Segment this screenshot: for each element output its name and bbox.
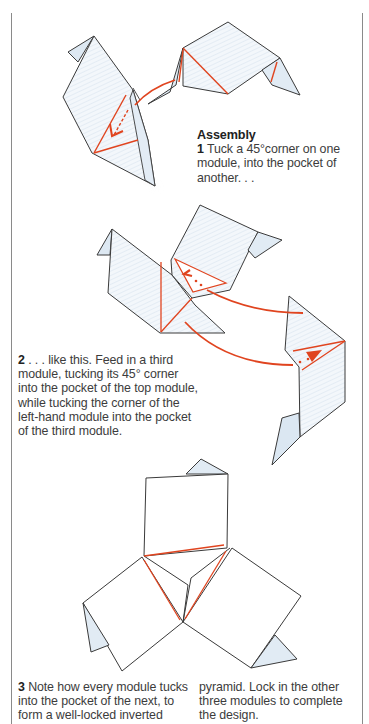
step-3-diagram — [83, 459, 301, 671]
step-number: 2 — [18, 353, 25, 367]
step-3-caption-col1: 3 Note how every module tucks into the p… — [18, 680, 193, 723]
step-text: Note how every module tucks into the poc… — [18, 680, 188, 722]
step-1-caption: Assembly 1 Tuck a 45°corner on one modul… — [197, 128, 357, 185]
right-module-2 — [272, 296, 345, 465]
step-text-continued: pyramid. Lock in the other three modules… — [199, 680, 343, 722]
step-2-caption: 2 . . . like this. Feed in a third modul… — [18, 353, 198, 438]
step-3-caption-col2: pyramid. Lock in the other three modules… — [199, 680, 359, 723]
left-module — [63, 36, 155, 186]
book-page: Assembly 1 Tuck a 45°corner on one modul… — [0, 0, 369, 724]
step-text: Tuck a 45°corner on one module, into the… — [197, 142, 340, 184]
right-module — [148, 22, 300, 104]
step-text: . . . like this. Feed in a third module,… — [18, 353, 198, 438]
step-number: 1 — [197, 142, 204, 156]
step-number: 3 — [18, 680, 25, 694]
top-module — [171, 205, 282, 298]
section-heading: Assembly — [197, 128, 357, 142]
